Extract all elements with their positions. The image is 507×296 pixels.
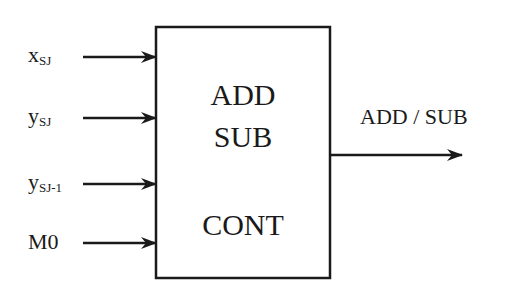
input-label-subscript: SJ <box>39 53 51 68</box>
input-label-base: M0 <box>28 229 59 254</box>
input-label-ysj: ySJ <box>28 105 51 128</box>
block-label-add: ADD <box>156 80 330 110</box>
input-label-xsj: xSJ <box>28 44 51 67</box>
diagram-canvas: xSJ ySJ ySJ-1 M0 ADD SUB CONT ADD / SUB <box>0 0 507 296</box>
input-label-subscript: SJ <box>39 114 51 129</box>
block-label-cont: CONT <box>156 210 330 240</box>
input-label-base: y <box>28 169 39 194</box>
input-label-base: y <box>28 103 39 128</box>
block-label-sub: SUB <box>156 122 330 152</box>
input-label-ysj-1: ySJ-1 <box>28 171 62 194</box>
input-label-m0: M0 <box>28 231 59 253</box>
input-label-subscript: SJ-1 <box>39 180 62 195</box>
input-label-base: x <box>28 42 39 67</box>
output-label: ADD / SUB <box>360 106 468 128</box>
